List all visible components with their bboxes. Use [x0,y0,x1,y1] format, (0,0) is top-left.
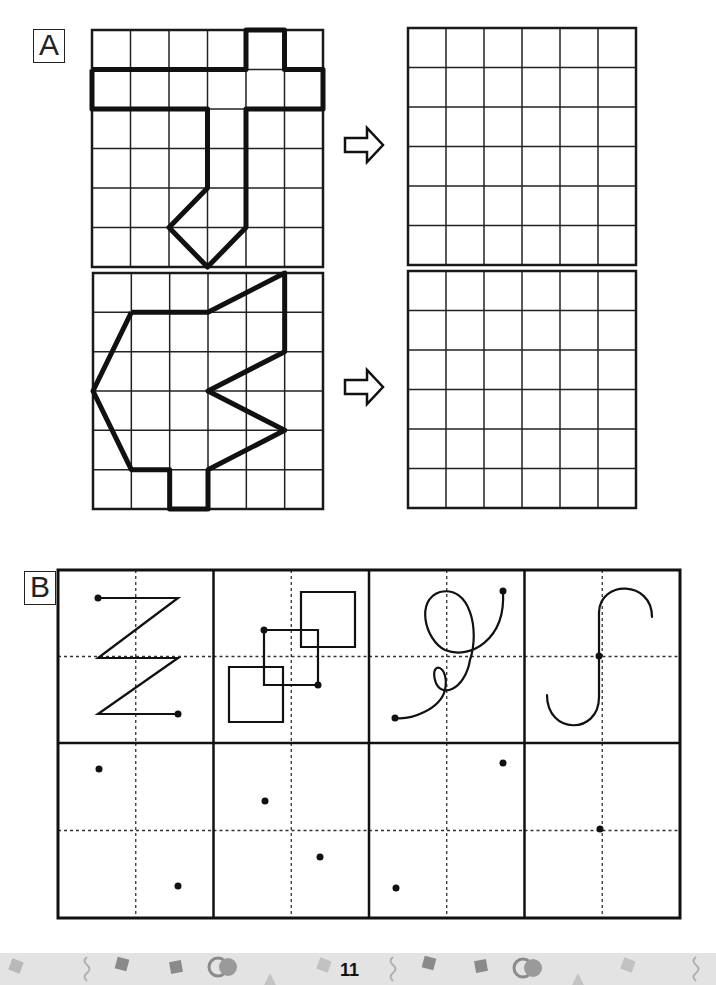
practice-cell-2[interactable] [262,798,324,861]
guide-dot [262,798,269,805]
practice-cell-3[interactable] [393,760,507,892]
section-b-label: B [24,571,56,605]
guide-dot [317,854,324,861]
guide-dot [175,883,182,890]
page-number: 11 [340,960,359,981]
start-dot [261,627,268,634]
section-b-practice-dots [96,760,604,892]
start-dot [175,711,182,718]
right-arrow-icon [345,370,383,404]
start-dot [596,653,603,660]
right-arrow-icons [345,128,383,404]
section-b-table [58,570,680,918]
guide-dot [393,885,400,892]
guide-dot [500,760,507,767]
practice-cell-4[interactable] [597,826,604,833]
worksheet-canvas [0,0,716,985]
loop-curve [392,588,507,722]
start-dot [500,588,507,595]
practice-cell-1[interactable] [96,766,182,890]
guide-dot [96,766,103,773]
target-grid-1 [408,28,636,265]
right-arrow-icon [345,128,383,162]
section-a-label: A [33,29,65,63]
start-dot [315,682,322,689]
guide-dot [597,826,604,833]
start-dot [95,595,102,602]
target-grid-2 [408,271,636,508]
start-dot [392,715,399,722]
section-a-grids [92,28,636,509]
